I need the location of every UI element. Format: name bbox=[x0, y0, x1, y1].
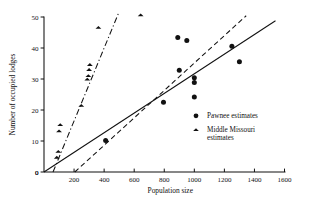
x-axis-title: Population size bbox=[148, 186, 194, 195]
y-axis-title: Number of occupied lodges bbox=[8, 53, 17, 135]
data-point-triangle bbox=[55, 150, 61, 153]
data-point-triangle bbox=[96, 26, 102, 29]
y-tick-label: 50 bbox=[32, 14, 40, 22]
fit-line-pawnee-fit bbox=[44, 21, 275, 172]
data-point-circle bbox=[161, 100, 166, 105]
data-point-circle bbox=[103, 138, 108, 143]
data-point-circle bbox=[192, 94, 197, 99]
x-tick-label: 1400 bbox=[247, 176, 262, 184]
x-tick-label: 400 bbox=[99, 176, 110, 184]
y-tick-label: 10 bbox=[32, 138, 40, 146]
legend-marker-triangle bbox=[193, 128, 199, 131]
legend-label-line2: estimates bbox=[207, 134, 234, 142]
data-point-circle bbox=[184, 38, 189, 43]
legend-label: Pawnee estimates bbox=[207, 112, 258, 120]
scatter-plot-figure: 0102030405002004006008001000120014001600… bbox=[0, 0, 313, 204]
x-tick-label: 0 bbox=[35, 169, 39, 177]
fit-line-middle-missouri-fit bbox=[53, 12, 119, 172]
data-point-triangle bbox=[86, 68, 92, 71]
legend-label: Middle Missouri bbox=[207, 126, 255, 134]
data-point-circle bbox=[192, 80, 197, 85]
x-tick-label: 800 bbox=[159, 176, 170, 184]
y-tick-label: 30 bbox=[32, 76, 40, 84]
fit-line-combined-fit bbox=[75, 16, 246, 172]
data-point-triangle bbox=[78, 104, 84, 107]
data-point-circle bbox=[192, 75, 197, 80]
x-tick-label: 600 bbox=[129, 176, 140, 184]
data-point-circle bbox=[177, 68, 182, 73]
legend-marker-circle bbox=[194, 113, 199, 118]
data-point-triangle bbox=[56, 129, 62, 132]
x-tick-label: 1000 bbox=[187, 176, 202, 184]
y-tick-label: 40 bbox=[32, 45, 40, 53]
x-tick-label: 1200 bbox=[217, 176, 232, 184]
data-point-circle bbox=[229, 44, 234, 49]
data-point-triangle bbox=[57, 123, 63, 126]
x-tick-label: 200 bbox=[69, 176, 80, 184]
y-tick-label: 20 bbox=[32, 107, 40, 115]
x-tick-label: 1600 bbox=[278, 176, 293, 184]
data-point-triangle bbox=[84, 78, 90, 81]
data-point-circle bbox=[175, 35, 180, 40]
data-point-triangle bbox=[85, 74, 91, 77]
data-point-triangle bbox=[138, 13, 144, 16]
data-point-triangle bbox=[87, 63, 93, 66]
data-point-circle bbox=[237, 59, 242, 64]
